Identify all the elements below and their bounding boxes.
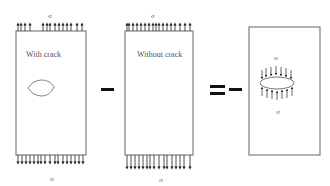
- sigma-bottom: σ: [159, 176, 163, 184]
- label-without-crack: Without crack: [137, 50, 182, 59]
- label-with-crack: With crack: [26, 50, 61, 59]
- sigma-top: σ: [48, 12, 52, 20]
- bottom-tension-arrows: [18, 155, 83, 163]
- crack-face-pressure-arrows: [262, 66, 292, 100]
- crack-shape: [28, 80, 54, 96]
- sigma-top: σ: [151, 12, 155, 20]
- sigma-top: σ: [274, 54, 278, 62]
- panel-without-crack: Without crack σ σ: [125, 12, 193, 184]
- sigma-bottom: σ: [276, 108, 280, 116]
- panel-with-crack: With crack σ σ: [16, 12, 86, 183]
- top-tension-arrows: [18, 24, 82, 31]
- superposition-diagram: With crack σ σ: [0, 0, 330, 186]
- crack-ellipse: [260, 77, 294, 89]
- equals-minus-operator: [210, 85, 242, 95]
- minus-operator: [101, 88, 114, 91]
- top-tension-arrows: [127, 24, 190, 31]
- panel-crack-faces-loaded: σ σ: [249, 27, 320, 155]
- sigma-bottom: σ: [50, 175, 54, 183]
- bottom-tension-arrows: [127, 155, 190, 168]
